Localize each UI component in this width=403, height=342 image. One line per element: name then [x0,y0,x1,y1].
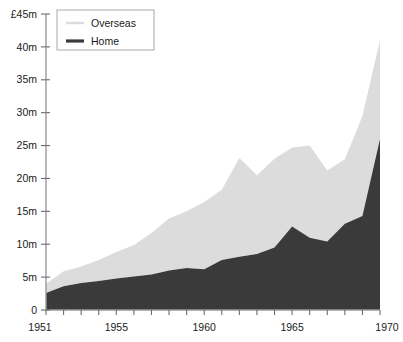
y-tick-label: 30m [17,106,38,118]
y-tick-label: 25m [17,139,38,151]
y-tick-label: 10m [17,238,38,250]
y-tick-label: £45m [11,8,38,20]
x-tick-label: 1955 [105,321,129,333]
y-tick-label: 5m [22,271,37,283]
y-tick-label: 15m [17,205,38,217]
chart-canvas: 05m10m15m20m25m30m35m40m£45m 19511955196… [0,0,403,342]
y-tick-label: 20m [17,172,38,184]
x-tick-label: 1960 [193,321,217,333]
legend-label-home: Home [91,35,119,47]
y-tick-label: 0 [31,304,37,316]
x-tick-label: 1965 [280,321,304,333]
chart-legend: OverseasHome [57,10,154,50]
x-tick-label: 1951 [28,321,52,333]
y-tick-label: 35m [17,73,38,85]
x-tick-label: 1970 [375,321,399,333]
y-tick-label: 40m [17,41,38,53]
legend-label-overseas: Overseas [91,17,136,29]
stacked-area-chart: 05m10m15m20m25m30m35m40m£45m 19511955196… [0,0,403,342]
